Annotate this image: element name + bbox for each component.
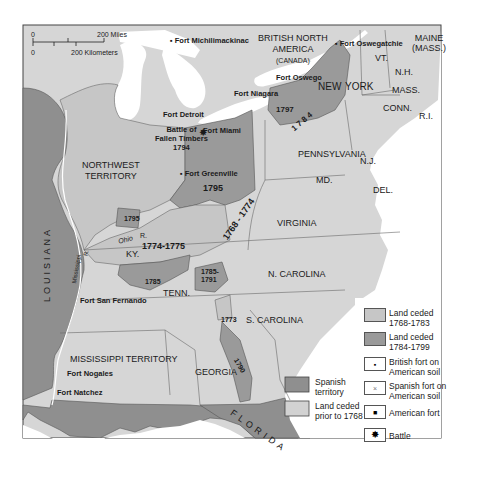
legend-prior-l1: Land ceded [315, 401, 363, 411]
label-ky: KY. [126, 250, 139, 259]
fort-niagara: Fort Niagara [234, 90, 278, 98]
legend-text: American fort [389, 408, 440, 418]
label-louisiana: LOUISIANA [43, 227, 52, 302]
l2: American soil [389, 367, 440, 377]
label-n-carolina: N. CAROLINA [268, 270, 326, 279]
l1: Battle [389, 431, 411, 441]
year-1774-1775: 1774-1775 [142, 242, 185, 251]
legend-prior-l2: prior to 1768 [315, 411, 363, 421]
legend-item-1784-1799: Land ceded1784-1799 [364, 332, 433, 352]
l1: American fort [389, 408, 440, 418]
legend-item-battle: ✸ Battle [364, 428, 411, 442]
year-1795-ohio: 1795 [203, 184, 223, 193]
fort-san-fernando: Fort San Fernando [80, 297, 147, 305]
fort-natchez: Fort Natchez [57, 389, 102, 397]
legend-swatch-prior [285, 401, 309, 416]
label-mississippi-river-r: R. [83, 250, 90, 257]
l1: British fort on [389, 357, 440, 367]
label-ohio-river-r: R. [140, 232, 147, 239]
label-nj: N.J. [360, 157, 376, 166]
year-1785-1791-b: 1791 [201, 276, 219, 284]
year-1797: 1797 [276, 106, 294, 114]
label-northwest-territory: NORTHWEST TERRITORY [82, 160, 140, 182]
american-fort-icon: ■ [364, 405, 386, 419]
nwt-line1: NORTHWEST [82, 160, 140, 171]
fort-michilimackinac: ▪ Fort Michilimackinac [170, 37, 249, 45]
l1: Land ceded [389, 308, 433, 318]
l2: 1784-1799 [389, 342, 433, 352]
battle-icon: ✸ [364, 428, 386, 442]
legend-item-british-fort: ▪ British fort onAmerican soil [364, 357, 440, 377]
maine-line1: MAINE [412, 33, 446, 43]
legend-text: Spanish fort onAmerican soil [389, 381, 446, 401]
legend-text: Land ceded1784-1799 [389, 332, 433, 352]
legend-prior-text: Land ceded prior to 1768 [315, 401, 363, 421]
legend-item-1768-1783: Land ceded1768-1783 [364, 308, 433, 328]
label-nh: N.H. [395, 68, 413, 77]
label-new: NEW [318, 82, 341, 92]
battle-year: 1794 [155, 143, 208, 152]
scale-zero-km: 0 [31, 49, 35, 56]
legend-text: Land ceded1768-1783 [389, 308, 433, 328]
fort-detroit: Fort Detroit [163, 111, 204, 119]
legend-item-american-fort: ■ American fort [364, 405, 440, 419]
legend-spanish-l2: territory [315, 387, 346, 397]
legend-text: Battle [389, 431, 411, 441]
swatch-light [364, 308, 386, 322]
fort-michilimackinac-label: Fort Michilimackinac [175, 36, 249, 45]
year-1785: 1785 [145, 278, 161, 285]
label-york: YORK [345, 82, 373, 92]
british-fort-icon: ▪ [364, 357, 386, 371]
label-georgia: GEORGIA [195, 368, 237, 377]
l2: American soil [389, 391, 446, 401]
label-pennsylvania: PENNSYLVANIA [298, 150, 366, 159]
label-ri: R.I. [419, 112, 433, 121]
nwt-line2: TERRITORY [82, 171, 140, 182]
fort-greenville-label: Fort Greenville [185, 169, 238, 178]
label-conn: CONN. [383, 104, 412, 113]
bna-canada: (CANADA) [258, 55, 328, 66]
label-tenn: TENN. [163, 289, 190, 298]
fort-oswegatchie-label: Fort Oswegatchie [340, 39, 403, 48]
label-s-carolina: S. CAROLINA [246, 316, 303, 325]
swatch-dark [364, 332, 386, 346]
scale-zero-miles: 0 [31, 31, 35, 38]
bna-line2: AMERICA [258, 44, 328, 55]
legend-swatch-spanish [285, 377, 309, 392]
label-maine: MAINE (MASS.) [412, 33, 446, 53]
year-1773: 1773 [221, 316, 237, 323]
legend-item-spanish-fort: × Spanish fort onAmerican soil [364, 381, 446, 401]
label-mass: MASS. [392, 86, 420, 95]
year-1785-1791: 1785- 1791 [201, 268, 219, 284]
spanish-fort-icon: × [364, 381, 386, 395]
label-md: MD. [316, 176, 333, 185]
legend-spanish-l1: Spanish [315, 377, 346, 387]
label-vt: VT. [375, 54, 388, 63]
l2: 1768-1783 [389, 318, 433, 328]
fort-nogales: Fort Nogales [67, 370, 113, 378]
label-british-north-america: BRITISH NORTH AMERICA (CANADA) [258, 33, 328, 66]
battle-icon: ✸ [199, 128, 207, 138]
scale-miles: 200 Miles [97, 31, 127, 38]
year-1785-1791-a: 1785- [201, 268, 219, 276]
scale-km: 200 Kilometers [71, 49, 118, 56]
maine-line2: (MASS.) [412, 43, 446, 53]
l1: Spanish fort on [389, 381, 446, 391]
label-mississippi-territory: MISSISSIPPI TERRITORY [70, 355, 178, 364]
l1: Land ceded [389, 332, 433, 342]
legend-spanish-text: Spanish territory [315, 377, 346, 397]
fort-greenville: ▪ Fort Greenville [180, 170, 238, 178]
label-virginia: VIRGINIA [277, 219, 317, 228]
fort-oswego: Fort Oswego [276, 74, 322, 82]
year-1795-parcel: 1795 [124, 215, 140, 222]
label-del: DEL. [373, 186, 393, 195]
legend-text: British fort onAmerican soil [389, 357, 440, 377]
fort-oswegatchie: ▪ Fort Oswegatchie [335, 40, 403, 48]
fort-miami: Fort Miami [203, 127, 241, 135]
bna-line1: BRITISH NORTH [258, 33, 328, 44]
